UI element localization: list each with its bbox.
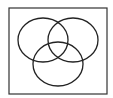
venn-diagram: [0, 0, 113, 98]
set-circle-right: [48, 18, 98, 62]
set-circle-left: [18, 18, 68, 62]
universe-rectangle: [9, 8, 107, 94]
set-circle-bottom: [33, 42, 83, 86]
